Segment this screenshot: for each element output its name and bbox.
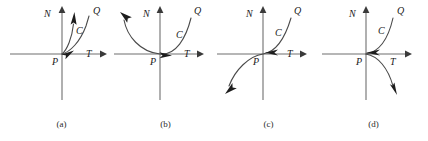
panel-c: N T P C Q (c) (215, 0, 322, 141)
t-axis-arrowhead (405, 51, 412, 58)
panel-a-endpoint-label: Q (93, 6, 100, 16)
curve-c-arrowhead (71, 12, 77, 25)
panel-c-origin-label: P (253, 57, 259, 67)
curve-c (366, 18, 393, 54)
n-axis-arrowhead (260, 6, 267, 13)
n-axis-arrowhead (59, 6, 66, 13)
panel-c-caption: (c) (215, 119, 322, 129)
curve-left-arrowhead (120, 12, 132, 23)
panel-d-curve-label: C (378, 26, 385, 36)
panel-b-curve-label: C (176, 30, 183, 40)
curve-lower (366, 54, 393, 86)
panel-a-axis-x-label: T (86, 49, 92, 59)
panel-d-axis-y-label: N (349, 9, 356, 19)
curve-lower-arrowhead (390, 83, 397, 95)
panel-a-curve-label: C (76, 26, 83, 36)
t-axis-arrowhead (197, 51, 204, 58)
panel-c-axis-y-label: N (246, 9, 253, 19)
panel-b-origin-label: P (150, 57, 156, 67)
panel-b-axis-y-label: N (143, 9, 150, 19)
panel-b-plot (112, 0, 219, 110)
curve-c (62, 24, 74, 54)
panel-a-plot (8, 0, 115, 110)
panel-b-caption: (b) (112, 119, 219, 129)
curve-lower-arrowhead (225, 83, 237, 94)
panel-d-axis-x-label: T (390, 57, 396, 67)
panel-d-origin-label: P (356, 57, 362, 67)
panel-b: N T P C Q (b) (112, 0, 219, 141)
panel-d-plot (320, 0, 427, 110)
tangent-arrowhead-at-p (160, 52, 173, 58)
panel-b-endpoint-label: Q (194, 6, 201, 16)
panel-c-axis-x-label: T (287, 49, 293, 59)
panel-d-endpoint-label: Q (397, 6, 404, 16)
panel-a-origin-label: P (52, 57, 58, 67)
panel-b-axis-x-label: T (184, 49, 190, 59)
panel-c-endpoint-label: Q (294, 6, 301, 16)
n-axis-arrowhead (363, 6, 370, 13)
panel-d: N T P C Q (d) (320, 0, 427, 141)
t-axis-arrowhead (100, 51, 107, 58)
panel-a-axis-y-label: N (44, 9, 51, 19)
panel-a-caption: (a) (8, 119, 115, 129)
panel-d-caption: (d) (320, 119, 427, 129)
n-axis-arrowhead (157, 6, 164, 13)
figure-four-panel-curves: N T P C Q (a) N T P C Q (b) (0, 0, 428, 141)
panel-c-curve-label: C (275, 28, 282, 38)
panel-c-plot (215, 0, 322, 110)
t-axis-arrowhead (300, 51, 307, 58)
panel-a: N T P C Q (a) (8, 0, 115, 141)
